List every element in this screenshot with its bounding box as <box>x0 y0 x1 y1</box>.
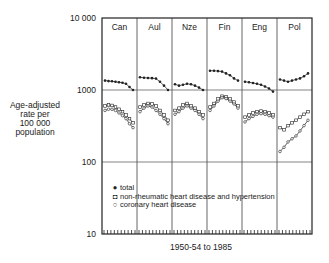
panel-label-eng: Eng <box>242 22 277 32</box>
open-circle-icon: ○ <box>112 201 118 210</box>
chart-plot-area <box>0 0 329 263</box>
panel-label-fin: Fin <box>207 22 242 32</box>
panel-label-nze: Nze <box>172 22 207 32</box>
panel-label-aul: Aul <box>137 22 172 32</box>
legend: ●total ◘non-rheumatic heart disease and … <box>112 184 275 210</box>
legend-item-coronary: ○coronary heart disease <box>112 201 275 210</box>
panel-label-can: Can <box>102 22 137 32</box>
x-axis-label: 1950-54 to 1985 <box>170 242 232 252</box>
panel-label-pol: Pol <box>277 22 312 32</box>
legend-label: coronary heart disease <box>120 200 196 209</box>
